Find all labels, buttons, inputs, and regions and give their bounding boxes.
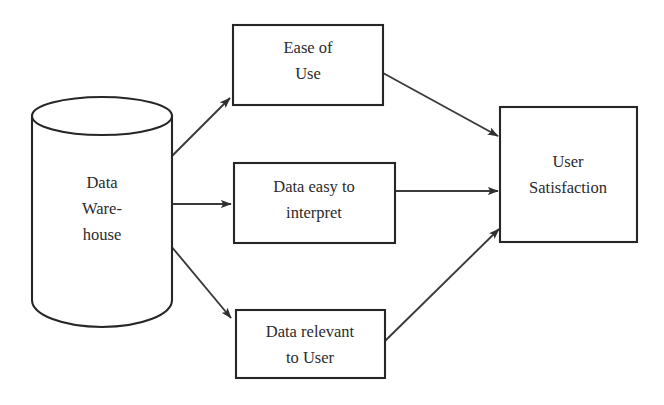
diagram-canvas: Data Ware- house Ease of Use Data easy t…	[0, 0, 664, 405]
node-ease-of-use[interactable]: Ease of Use	[233, 25, 383, 105]
cylinder-body	[32, 116, 172, 327]
node-label-line-3: house	[83, 225, 122, 244]
node-label-line-1: Data easy to	[273, 177, 355, 196]
cylinder-top-ellipse	[32, 97, 172, 135]
node-label-line-2: Use	[295, 64, 321, 83]
box-user-satisfaction	[500, 107, 637, 242]
node-data-easy-to-interpret[interactable]: Data easy to interpret	[234, 163, 395, 243]
edge-warehouse-to-ease-of-use	[172, 98, 230, 156]
node-user-satisfaction[interactable]: User Satisfaction	[500, 107, 637, 242]
edge-ease-of-use-to-satisfaction	[383, 73, 498, 136]
node-label-line-1: Data	[86, 173, 118, 192]
node-label-line-2: Ware-	[82, 199, 122, 218]
edge-data-relevant-to-satisfaction	[385, 229, 499, 341]
box-data-relevant-to-user	[236, 310, 385, 378]
node-label-line-2: Satisfaction	[529, 178, 607, 197]
node-label-line-2: to User	[286, 348, 335, 367]
node-label-line-1: Data relevant	[266, 322, 355, 341]
node-data-relevant-to-user[interactable]: Data relevant to User	[236, 310, 385, 378]
edge-warehouse-to-data-relevant	[171, 246, 231, 318]
diagram-svg: Data Ware- house Ease of Use Data easy t…	[0, 0, 664, 405]
node-label-line-1: User	[552, 152, 584, 171]
node-label-line-1: Ease of	[283, 38, 333, 57]
node-label-line-2: interpret	[286, 203, 342, 222]
node-data-warehouse[interactable]: Data Ware- house	[32, 97, 172, 327]
